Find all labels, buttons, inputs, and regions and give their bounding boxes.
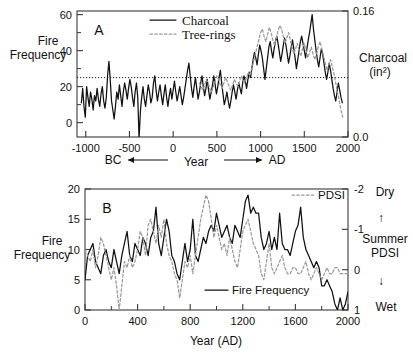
panel-b-xtick-label: 1600 bbox=[283, 315, 307, 327]
panel-b-dry-label: Dry bbox=[376, 185, 395, 199]
panel-b-legend-label-pdsi: PDSI bbox=[318, 189, 345, 201]
panel-b-xtick-label: 800 bbox=[181, 315, 199, 327]
panel-b-arrow-down-icon: ↓ bbox=[378, 274, 384, 288]
panel-b-rtick-label: 0 bbox=[354, 264, 360, 276]
panel-b-xtick-label: 0 bbox=[82, 315, 88, 327]
panel-b-xtick-label: 1200 bbox=[231, 315, 255, 327]
panel-b-ytick-label: 0 bbox=[74, 304, 80, 316]
panel-b-xtick-label: 2000 bbox=[336, 315, 360, 327]
panel-b-rtick-label: -2 bbox=[354, 183, 364, 195]
panel-b-xaxis-title: Year (AD) bbox=[190, 334, 242, 348]
panel-b: 05101520-2-1010400800120016002000BFireFr… bbox=[0, 0, 413, 356]
panel-b-ylabel-line2: Frequency bbox=[14, 248, 71, 262]
panel-b-ytick-label: 5 bbox=[74, 274, 80, 286]
panel-b-arrow-up-icon: ↑ bbox=[378, 211, 384, 225]
panel-b-ylabel-line1: Fire bbox=[42, 234, 63, 248]
panel-b-letter: B bbox=[102, 200, 111, 216]
panel-b-wrapper: 05101520-2-1010400800120016002000BFireFr… bbox=[0, 0, 413, 356]
panel-b-wet-label: Wet bbox=[375, 300, 397, 314]
figure-container: 02040600.00.16-1000-5000500100015002000A… bbox=[0, 0, 413, 356]
panel-b-rlabel-line2: PDSI bbox=[371, 246, 399, 260]
panel-b-rlabel-line1: Summer bbox=[362, 232, 407, 246]
panel-b-xtick-label: 400 bbox=[128, 315, 146, 327]
panel-b-ytick-label: 15 bbox=[68, 213, 80, 225]
panel-b-legend-label-firefreq: Fire Frequency bbox=[232, 284, 310, 296]
panel-b-ytick-label: 20 bbox=[68, 183, 80, 195]
